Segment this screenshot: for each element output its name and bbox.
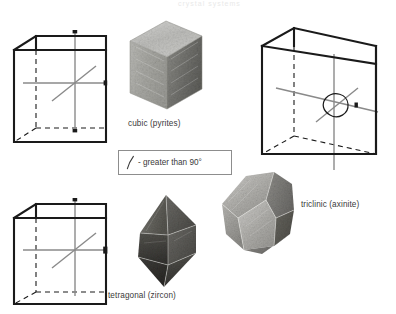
tetragonal-unit-cell-diagram (6, 192, 121, 304)
pyrite-specimen-photo (126, 19, 204, 114)
legend-text: - greater than 90° (138, 158, 202, 167)
triclinic-cell-axis-ticks (355, 103, 358, 108)
cubic-cell-hidden-edges (14, 50, 106, 142)
legend-box: - greater than 90° (118, 150, 232, 175)
crystal-systems-figure: crystal systems (0, 0, 396, 314)
cubic-cell-visible-edges (14, 36, 106, 142)
zircon-specimen-photo (126, 191, 210, 290)
caption-triclinic: triclinic (axinite) (301, 200, 359, 209)
triclinic-unit-cell-diagram (258, 18, 396, 190)
tetragonal-cell-axis-ticks (73, 198, 108, 254)
tetragonal-cell-visible-edges (14, 204, 106, 304)
triclinic-cell-visible-edges (262, 28, 376, 154)
triclinic-cell-axes (276, 54, 378, 170)
triclinic-cell-hidden-edges (262, 28, 376, 154)
caption-cubic: cubic (pyrites) (128, 119, 180, 128)
cubic-unit-cell-diagram (6, 22, 121, 140)
header-remnant-text: crystal systems (178, 0, 241, 7)
oblique-angle-mark-icon (126, 155, 135, 170)
pyrite-cube-faces (130, 21, 202, 109)
legend-content: - greater than 90° (119, 151, 231, 174)
caption-tetragonal: tetragonal (zircon) (108, 291, 176, 300)
axinite-specimen-photo (216, 166, 300, 260)
